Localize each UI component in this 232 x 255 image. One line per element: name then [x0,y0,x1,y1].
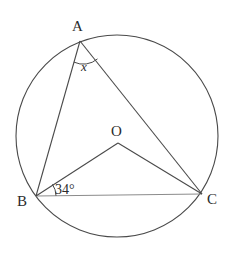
angle-label-x: x [80,59,87,74]
angle-label-34-degrees: 34° [55,182,75,197]
segment-OC [118,143,202,194]
geometry-canvas: A B C O x 34° [0,0,232,255]
segment-AC [80,41,202,194]
segment-AB [36,41,80,196]
vertex-label-C: C [207,191,217,207]
vertex-label-B: B [17,193,27,209]
geometry-figure: A B C O x 34° [0,0,232,255]
vertex-label-A: A [72,18,83,34]
vertex-label-O: O [111,123,122,139]
